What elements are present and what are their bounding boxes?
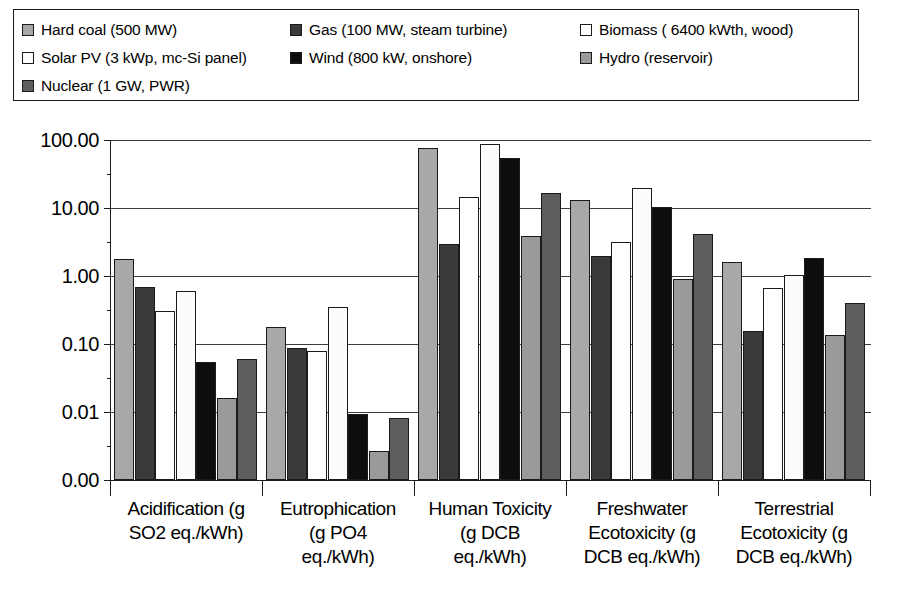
x-axis-category-label-line: (g DCB [414, 521, 566, 545]
x-axis-category-label: FreshwaterEcotoxicity (gDCB eq./kWh) [566, 497, 718, 569]
bar [693, 234, 713, 480]
bar [176, 291, 196, 480]
bar [307, 351, 327, 480]
legend-row: Hard coal (500 MW) Gas (100 MW, steam tu… [22, 16, 858, 44]
bar [652, 207, 672, 480]
legend-swatch-icon [22, 24, 34, 36]
legend-swatch-icon [580, 52, 592, 64]
bar [763, 288, 783, 480]
legend-item-gas: Gas (100 MW, steam turbine) [290, 21, 580, 39]
category-separator [414, 480, 415, 496]
bar [632, 188, 652, 480]
x-axis-category-label-line: Human Toxicity [414, 497, 566, 521]
bar [389, 418, 409, 480]
legend-label: Hard coal (500 MW) [41, 21, 177, 39]
bar [237, 359, 257, 480]
legend-row: Nuclear (1 GW, PWR) [22, 72, 858, 100]
x-axis-category-label: Acidification (gSO2 eq./kWh) [110, 497, 262, 545]
bar [155, 311, 175, 480]
x-axis-category-label: Human Toxicity(g DCBeq./kWh) [414, 497, 566, 569]
legend-label: Solar PV (3 kWp, mc-Si panel) [41, 49, 247, 67]
bar [845, 303, 865, 480]
bar [459, 197, 479, 480]
legend-label: Biomass ( 6400 kWth, wood) [599, 21, 793, 39]
bar-group [414, 140, 566, 480]
legend-swatch-icon [22, 52, 34, 64]
x-axis-category-label-line: DCB eq./kWh) [566, 545, 718, 569]
bar [480, 144, 500, 480]
legend-item-solar-pv: Solar PV (3 kWp, mc-Si panel) [22, 49, 290, 67]
x-axis-category-label-line: eq./kWh) [414, 545, 566, 569]
x-axis-category-label-line: Freshwater [566, 497, 718, 521]
bar [369, 451, 389, 480]
bar [784, 275, 804, 480]
bar [217, 398, 237, 480]
legend-label: Hydro (reservoir) [599, 49, 713, 67]
legend-grid: Hard coal (500 MW) Gas (100 MW, steam tu… [22, 16, 858, 100]
x-axis-category-label-line: DCB eq./kWh) [718, 545, 870, 569]
y-axis-tick-label: 0.10 [62, 334, 99, 354]
x-axis-category-label-line: (g PO4 [262, 521, 414, 545]
y-axis-tick-label: 0.01 [62, 402, 99, 422]
bar [804, 258, 824, 480]
category-separator [566, 480, 567, 496]
bar [328, 307, 348, 480]
y-axis-tick-label: 100.00 [40, 130, 99, 150]
bar [722, 262, 742, 480]
category-separator [870, 480, 871, 496]
x-axis-category-label-line: Terrestrial [718, 497, 870, 521]
legend-swatch-icon [290, 24, 302, 36]
bar [825, 335, 845, 480]
legend-label: Gas (100 MW, steam turbine) [309, 21, 507, 39]
bar [521, 236, 541, 480]
bar-group [566, 140, 718, 480]
x-axis-category-label: TerrestrialEcotoxicity (gDCB eq./kWh) [718, 497, 870, 569]
legend-box: Hard coal (500 MW) Gas (100 MW, steam tu… [13, 9, 859, 101]
bar [541, 193, 561, 480]
y-axis-tick-label: 0.00 [62, 470, 99, 490]
bar-group [110, 140, 262, 480]
x-axis-category-label-line: SO2 eq./kWh) [110, 521, 262, 545]
bar-group [718, 140, 870, 480]
bar-group [262, 140, 414, 480]
y-axis-tick-label: 1.00 [62, 266, 99, 286]
legend-item-nuclear: Nuclear (1 GW, PWR) [22, 77, 290, 95]
x-axis-category-label-line: Ecotoxicity (g [718, 521, 870, 545]
x-axis-category-label-line: eq./kWh) [262, 545, 414, 569]
bar [611, 242, 631, 480]
legend-row: Solar PV (3 kWp, mc-Si panel) Wind (800 … [22, 44, 858, 72]
bar [591, 256, 611, 480]
category-separator [110, 480, 111, 496]
legend-label: Wind (800 kW, onshore) [309, 49, 472, 67]
legend-item-wind: Wind (800 kW, onshore) [290, 49, 580, 67]
legend-swatch-icon [290, 52, 302, 64]
legend-swatch-icon [22, 80, 34, 92]
bar [439, 244, 459, 480]
y-axis-tick-label: 10.00 [51, 198, 99, 218]
x-axis-category-label-line: Ecotoxicity (g [566, 521, 718, 545]
bar [135, 287, 155, 480]
x-axis-category-label: Eutrophication(g PO4eq./kWh) [262, 497, 414, 569]
category-separator [262, 480, 263, 496]
bar [287, 348, 307, 480]
x-axis-category-label-line: Acidification (g [110, 497, 262, 521]
x-axis-category-label-line: Eutrophication [262, 497, 414, 521]
bar [114, 259, 134, 480]
legend-item-hard-coal: Hard coal (500 MW) [22, 21, 290, 39]
bar [743, 331, 763, 480]
bar [673, 279, 693, 480]
bar [196, 362, 216, 480]
legend-swatch-icon [580, 24, 592, 36]
category-separator [718, 480, 719, 496]
bar [348, 414, 368, 480]
bar [266, 327, 286, 480]
legend-label: Nuclear (1 GW, PWR) [41, 77, 190, 95]
bar [418, 148, 438, 480]
bar [570, 200, 590, 480]
bar [500, 158, 520, 480]
legend-item-biomass: Biomass ( 6400 kWth, wood) [580, 21, 850, 39]
legend-item-hydro: Hydro (reservoir) [580, 49, 850, 67]
